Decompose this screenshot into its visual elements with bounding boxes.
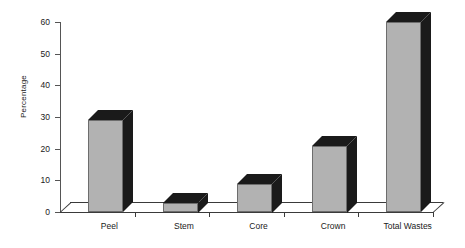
x-category-label: Core bbox=[249, 221, 267, 231]
y-tick-mark bbox=[55, 85, 60, 86]
x-category-label: Total Wastes bbox=[384, 221, 432, 231]
y-tick-label: 40 bbox=[6, 80, 50, 90]
bar-side-face bbox=[421, 12, 431, 212]
bar-front-face bbox=[163, 203, 198, 213]
bar-chart: Percentage 0102030405060 PeelStemCoreCro… bbox=[0, 0, 465, 248]
y-tick-mark bbox=[55, 180, 60, 181]
y-axis-title: Percentage bbox=[19, 52, 28, 142]
y-tick-label: 50 bbox=[6, 49, 50, 59]
bar-front-face bbox=[237, 184, 272, 213]
x-tick-mark bbox=[433, 212, 434, 217]
x-tick-mark bbox=[209, 212, 210, 217]
bar-peel bbox=[88, 120, 123, 212]
x-tick-mark bbox=[358, 212, 359, 217]
y-axis-line bbox=[60, 22, 61, 213]
y-tick-mark bbox=[55, 212, 60, 213]
bar-side-face bbox=[123, 110, 133, 212]
y-tick-label: 60 bbox=[6, 17, 50, 27]
bar-stem bbox=[163, 203, 198, 213]
y-tick-mark bbox=[55, 22, 60, 23]
bar-front-face bbox=[88, 120, 123, 212]
x-category-label: Stem bbox=[174, 221, 194, 231]
y-tick-label: 10 bbox=[6, 175, 50, 185]
y-tick-mark bbox=[55, 149, 60, 150]
y-tick-mark bbox=[55, 117, 60, 118]
y-tick-label: 0 bbox=[6, 207, 50, 217]
x-tick-mark bbox=[135, 212, 136, 217]
floor-right-edge bbox=[433, 202, 445, 213]
x-tick-mark bbox=[284, 212, 285, 217]
bar-front-face bbox=[312, 146, 347, 213]
bar-front-face bbox=[386, 22, 421, 212]
x-category-label: Crown bbox=[321, 221, 346, 231]
bar-total-wastes bbox=[386, 22, 421, 212]
y-tick-mark bbox=[55, 54, 60, 55]
bar-crown bbox=[312, 146, 347, 213]
bar-core bbox=[237, 184, 272, 213]
x-category-label: Peel bbox=[101, 221, 118, 231]
y-tick-label: 20 bbox=[6, 144, 50, 154]
bar-side-face bbox=[347, 136, 357, 213]
y-tick-label: 30 bbox=[6, 112, 50, 122]
x-axis-line bbox=[60, 212, 433, 213]
